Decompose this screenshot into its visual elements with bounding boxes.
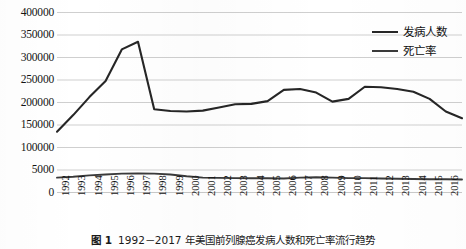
figure-prostate-cancer-trend: 4000003500003000002500002000001500001000… (0, 0, 466, 249)
y-tick-label: 400000 (0, 7, 54, 19)
legend-label-cases: 发病人数 (403, 26, 447, 38)
x-tick-label: 2014 (418, 175, 429, 196)
x-tick-label: 2001 (207, 175, 218, 196)
x-tick-label: 1993 (77, 175, 88, 196)
x-tick-label: 2005 (272, 175, 283, 196)
y-tick-label: 300000 (0, 52, 54, 64)
legend-item-mortality: 死亡率 (372, 41, 466, 60)
x-tick-label: 2009 (337, 175, 348, 196)
figure-caption: 图 11992－2017 年美国前列腺癌发病人数和死亡率流行趋势 (0, 234, 466, 247)
legend-line-swatch-mortality (372, 50, 398, 52)
x-tick-label: 2015 (434, 175, 445, 196)
x-tick-label: 2006 (288, 175, 299, 196)
x-tick-label: 2012 (385, 175, 396, 196)
y-tick-label: 150000 (0, 119, 54, 131)
x-tick-label: 2000 (191, 175, 202, 196)
figure-caption-text: 1992－2017 年美国前列腺癌发病人数和死亡率流行趋势 (118, 234, 375, 246)
x-tick-label: 1995 (110, 175, 121, 196)
y-tick-label: 200000 (0, 97, 54, 109)
figure-caption-number: 图 1 (91, 234, 112, 246)
x-tick-label: 1996 (126, 175, 137, 196)
y-tick-label: 350000 (0, 29, 54, 41)
legend-line-swatch-cases (372, 31, 398, 33)
y-tick-label: 5000 (0, 164, 54, 176)
y-tick-label: 250000 (0, 74, 54, 86)
x-tick-label: 1998 (158, 175, 169, 196)
x-tick-label: 2008 (320, 175, 331, 196)
x-tick-label: 1992 (61, 175, 72, 196)
x-tick-label: 1994 (94, 175, 105, 196)
x-tick-label: 1999 (175, 175, 186, 196)
chart-legend: 发病人数 死亡率 (372, 22, 466, 60)
x-tick-label: 2007 (304, 175, 315, 196)
x-tick-label: 2010 (353, 175, 364, 196)
y-tick-label: 100000 (0, 142, 54, 154)
x-tick-label: 1997 (142, 175, 153, 196)
x-tick-label: 2011 (369, 175, 380, 195)
legend-item-cases: 发病人数 (372, 22, 466, 41)
x-tick-label: 2013 (401, 175, 412, 196)
x-tick-label: 2003 (239, 175, 250, 196)
legend-label-mortality: 死亡率 (403, 45, 436, 57)
y-tick-label: 0 (0, 187, 54, 199)
x-tick-label: 2004 (256, 175, 267, 196)
x-tick-label: 2002 (223, 175, 234, 196)
x-tick-label: 2016 (450, 175, 461, 196)
